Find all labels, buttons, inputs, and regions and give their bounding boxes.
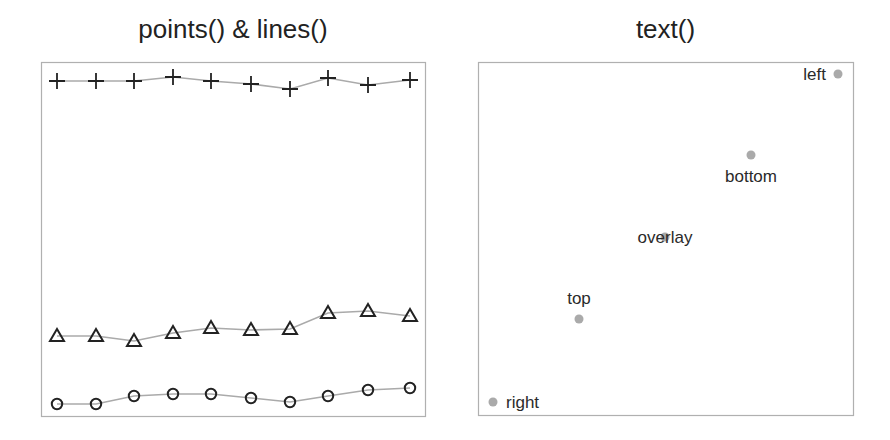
text-label-top: top (567, 289, 591, 308)
chart-canvas: left bottom overlay top right (0, 0, 890, 440)
point-left-dot-icon (834, 70, 843, 79)
triangle-series-line (57, 311, 410, 341)
plus-marker-icon (320, 70, 336, 86)
plus-series-line (57, 77, 410, 89)
text-label-overlay: overlay (638, 228, 693, 247)
plus-marker-icon (49, 73, 65, 89)
triangle-marker-icon (361, 304, 375, 316)
plus-marker-icon (126, 73, 142, 89)
text-label-right: right (506, 393, 539, 412)
plus-marker-icon (360, 77, 376, 93)
left-series-group (49, 69, 418, 409)
plus-marker-icon (243, 76, 259, 92)
left-plot-frame (42, 63, 426, 417)
plus-marker-icon (88, 73, 104, 89)
plus-marker-icon (282, 81, 298, 97)
text-label-left: left (803, 65, 826, 84)
point-top-dot-icon (575, 315, 584, 324)
triangle-marker-icon (50, 329, 64, 341)
plus-marker-icon (203, 73, 219, 89)
point-bottom-dot-icon (747, 151, 756, 160)
triangle-marker-icon (204, 321, 218, 333)
point-right-dot-icon (489, 398, 498, 407)
plus-marker-icon (165, 69, 181, 85)
circle-series-line (57, 388, 410, 404)
triangle-marker-icon (89, 329, 103, 341)
triangle-marker-icon (283, 322, 297, 334)
plus-marker-icon (402, 72, 418, 88)
text-label-bottom: bottom (725, 167, 777, 186)
